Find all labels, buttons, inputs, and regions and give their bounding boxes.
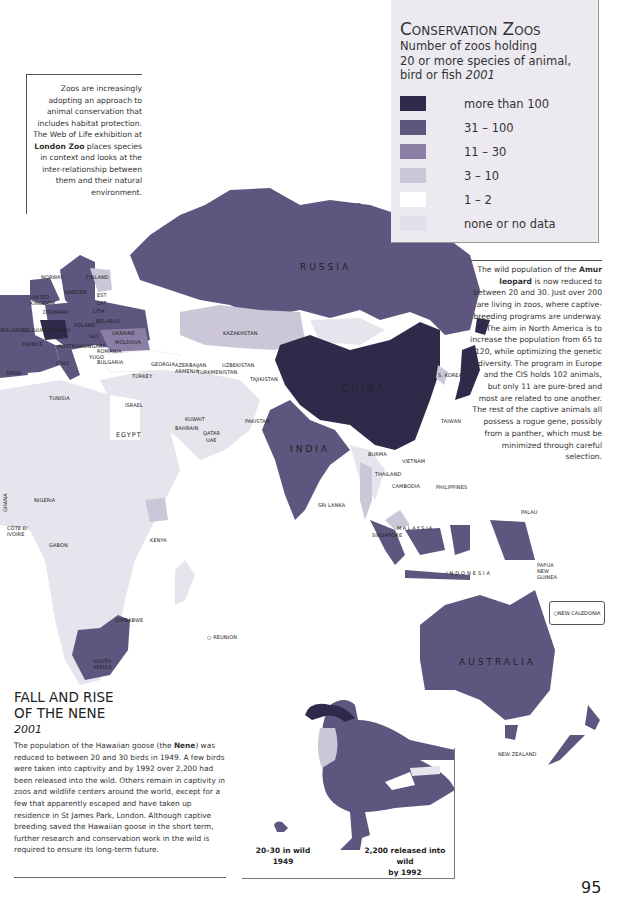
- label-cambodia: CAMBODIA: [392, 483, 420, 489]
- label-georgia: GEORGIA: [151, 361, 175, 367]
- nene-section: FALL AND RISEOF THE NENE 2001 The popula…: [14, 690, 229, 856]
- label-ghana: GHANA: [2, 493, 8, 512]
- label-india: INDIA: [290, 444, 330, 454]
- legend-items: more than 100 31 – 100 11 – 30 3 – 10 1 …: [400, 92, 598, 236]
- legend-swatch: [400, 216, 426, 231]
- legend-subtitle: Number of zoos holding 20 or more specie…: [400, 39, 598, 83]
- legend-item: 31 – 100: [400, 116, 598, 140]
- label-bulgaria: BULGARIA: [97, 359, 123, 365]
- label-tunisia: TUNISIA: [49, 395, 70, 401]
- label-ukraine: UKRAINE: [112, 330, 135, 336]
- label-s-korea: S. KOREA: [438, 372, 462, 378]
- label-spain: SPAIN: [6, 370, 21, 376]
- caption-1949: 20–30 in wild1949: [248, 845, 318, 867]
- legend-item: 1 – 2: [400, 188, 598, 212]
- label-indonesia: INDONESIA: [446, 570, 492, 576]
- legend-item: 3 – 10: [400, 164, 598, 188]
- label-nigeria: NIGERIA: [34, 497, 55, 503]
- legend-swatch: [400, 120, 426, 135]
- label-uzbekistan: UZBEKISTAN: [222, 362, 254, 368]
- label-austria: AUSTRIA: [58, 343, 80, 349]
- legend-title: Conservation Zoos: [400, 20, 598, 39]
- label-reunion: ○ REUNION: [207, 634, 237, 640]
- label-lat: LAT: [97, 300, 106, 306]
- label-ireland: IRELAND: [0, 327, 23, 333]
- label-malaysia: MALAYSIA: [397, 525, 434, 531]
- legend-panel: Conservation Zoos Number of zoos holding…: [391, 0, 599, 243]
- legend-swatch: [400, 96, 426, 111]
- label-norway: NORWAY: [41, 274, 63, 280]
- label-new-zealand: NEW ZEALAND: [498, 751, 536, 757]
- label-est: EST: [97, 292, 107, 298]
- legend-swatch: [400, 168, 426, 183]
- label-sri-lanka: SRI LANKA: [318, 502, 345, 508]
- label-papua-new-guinea: PAPUA NEW GUINEA: [537, 562, 563, 580]
- nene-year: 2001: [14, 723, 229, 736]
- label-south-africa: SOUTH AFRICA: [93, 658, 117, 670]
- label-finland: FINLAND: [86, 274, 109, 280]
- label-gabon: GABON: [49, 542, 68, 548]
- label-taiwan: TAIWAN: [441, 418, 461, 424]
- label-palau: PALAU: [521, 509, 538, 515]
- london-zoo-note: Zoos are increasingly adopting an approa…: [26, 74, 142, 214]
- label-slo: SLO: [89, 333, 99, 339]
- divider: [14, 877, 226, 878]
- label-cote-divoire: CÔTE D' IVOIRE: [7, 525, 29, 537]
- label-uk: UNITED KINGDOM: [30, 294, 60, 306]
- label-tajikistan: TAJIKISTAN: [250, 376, 278, 382]
- label-denmark: DENMARK: [43, 309, 69, 315]
- nene-title: FALL AND RISEOF THE NENE: [14, 690, 229, 721]
- label-lith: LITH: [93, 308, 104, 314]
- page-number: 95: [581, 878, 601, 897]
- amur-leopard-note: The wild population of the Amur leopard …: [470, 260, 602, 463]
- label-philippines: PHILIPPINES: [436, 484, 467, 490]
- label-poland: POLAND: [74, 322, 95, 328]
- label-new-caledonia: ○ NEW CALEDONIA: [549, 601, 605, 625]
- legend-swatch: [400, 192, 426, 207]
- label-sweden: SWEDEN: [64, 289, 87, 295]
- label-uae: UAE: [206, 437, 217, 443]
- label-zimbabwe: ZIMBABWE: [115, 617, 143, 623]
- label-turkmenistan: TURKMENISTAN: [197, 369, 237, 375]
- label-israel: ISRAEL: [125, 402, 143, 408]
- label-russia: RUSSIA: [300, 262, 351, 272]
- label-pakistan: PAKISTAN: [245, 418, 270, 424]
- label-belarus: BELARUS: [96, 318, 120, 324]
- label-kenya: KENYA: [150, 537, 167, 543]
- label-armenia: ARMENIA: [175, 368, 199, 374]
- label-belgium: BELGIUM: [22, 327, 45, 333]
- legend-swatch: [400, 144, 426, 159]
- label-china: CHINA: [342, 383, 386, 393]
- label-turkey: TURKEY: [132, 373, 152, 379]
- label-kuwait: KUWAIT: [185, 416, 205, 422]
- legend-item: none or no data: [400, 212, 598, 236]
- label-bahrain: BAHRAIN: [175, 425, 198, 431]
- label-kazakhstan: KAZAKHSTAN: [223, 330, 258, 336]
- label-germany: GERMANY: [45, 327, 71, 333]
- label-burma: BURMA: [368, 451, 387, 457]
- label-qatar: QATAR: [203, 430, 220, 436]
- label-thailand: THAILAND: [375, 471, 401, 477]
- legend-item: 11 – 30: [400, 140, 598, 164]
- label-australia: AUSTRALIA: [459, 657, 536, 667]
- label-singapore: SINGAPORE: [372, 532, 402, 538]
- region-australia: [420, 590, 555, 720]
- caption-1992: 2,200 released into wildby 1992: [355, 845, 455, 878]
- label-vietnam: VIETNAM: [402, 458, 425, 464]
- label-egypt: EGYPT: [116, 431, 142, 439]
- label-italy: ITALY: [56, 360, 69, 366]
- label-france: FRANCE: [22, 341, 43, 347]
- label-moldova: MOLDOVA: [115, 339, 141, 345]
- nene-text: The population of the Hawaiian goose (th…: [14, 740, 229, 856]
- legend-item: more than 100: [400, 92, 598, 116]
